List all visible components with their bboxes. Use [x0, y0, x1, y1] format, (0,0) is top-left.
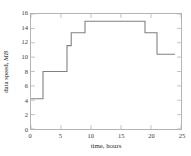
- y-tick-label: 16: [22, 10, 29, 17]
- y-tick-label: 14: [22, 24, 29, 31]
- y-tick-label: 6: [25, 83, 28, 90]
- x-tick-label: 25: [179, 133, 186, 140]
- x-tick-label: 15: [118, 133, 125, 140]
- y-tick-label: 10: [22, 54, 29, 61]
- y-axis-label-text: data speed,: [2, 60, 9, 92]
- y-tick-label: 8: [25, 68, 28, 75]
- x-axis-label: time, hours: [30, 143, 182, 150]
- x-tick-label: 0: [28, 133, 31, 140]
- x-tick-label: 10: [88, 133, 95, 140]
- chart-plot-svg: [31, 14, 181, 129]
- x-tick-label: 20: [148, 133, 155, 140]
- y-tick-label: 4: [25, 98, 28, 105]
- y-axis-label-unit: MB: [2, 51, 9, 61]
- x-tick-label: 5: [59, 133, 62, 140]
- y-tick-label: 12: [22, 39, 29, 46]
- data-series-line: [31, 21, 175, 99]
- chart-figure: data speed, MB 0246810121416 0510152025 …: [0, 0, 191, 156]
- y-tick-label: 2: [25, 112, 28, 119]
- y-axis-tick-labels: 0246810121416: [12, 13, 28, 130]
- y-axis-label: data speed, MB: [3, 51, 10, 93]
- y-axis-label-container: data speed, MB: [0, 13, 12, 130]
- plot-area: [30, 13, 182, 130]
